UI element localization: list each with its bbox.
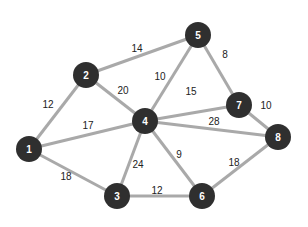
node-label: 1 [26, 144, 32, 155]
node-6: 6 [189, 183, 215, 209]
edge-weight-label: 15 [185, 86, 197, 97]
edge-weight-label: 17 [82, 120, 94, 131]
edge-4-7 [145, 105, 239, 121]
edge-weight-label: 10 [260, 100, 272, 111]
node-8: 8 [265, 124, 291, 150]
node-label: 8 [275, 132, 281, 143]
edge-weight-label: 18 [60, 171, 72, 182]
edge-weight-label: 24 [132, 159, 144, 170]
graph-diagram: 12171814201081510282491218 12345678 [0, 0, 308, 227]
edge-weight-label: 10 [154, 71, 166, 82]
edge-4-5 [145, 35, 198, 121]
edge-6-8 [202, 137, 278, 196]
edge-weight-label: 9 [176, 149, 182, 160]
node-label: 6 [199, 191, 205, 202]
node-label: 5 [195, 30, 201, 41]
node-label: 2 [83, 70, 89, 81]
edge-weight-label: 12 [151, 185, 163, 196]
node-1: 1 [16, 136, 42, 162]
node-label: 3 [114, 191, 120, 202]
node-2: 2 [73, 62, 99, 88]
edge-weight-label: 14 [131, 43, 143, 54]
edge-weight-label: 8 [222, 49, 228, 60]
edge-weight-label: 20 [117, 85, 129, 96]
edge-2-5 [86, 35, 198, 75]
node-3: 3 [104, 183, 130, 209]
edge-weight-label: 18 [228, 157, 240, 168]
node-label: 7 [236, 100, 242, 111]
edge-1-3 [29, 149, 117, 196]
edge-weight-label: 28 [208, 116, 220, 127]
node-4: 4 [132, 108, 158, 134]
node-5: 5 [185, 22, 211, 48]
node-7: 7 [226, 92, 252, 118]
edge-weight-label: 12 [42, 99, 54, 110]
node-label: 4 [142, 116, 148, 127]
